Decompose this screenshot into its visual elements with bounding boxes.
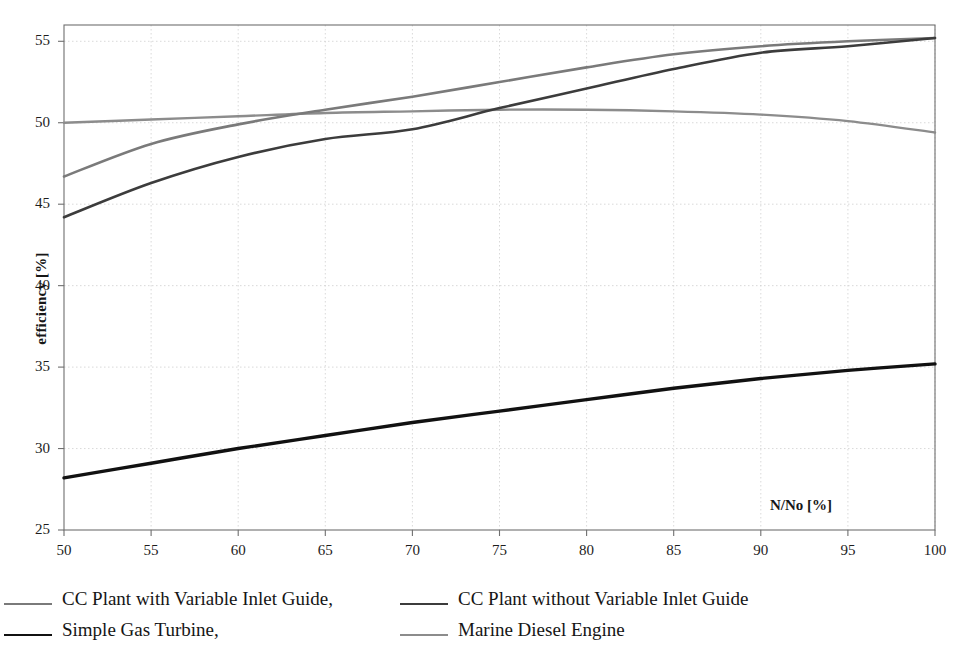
legend-label: CC Plant with Variable Inlet Guide, [62, 589, 333, 608]
legend-label: CC Plant without Variable Inlet Guide [458, 589, 748, 608]
y-tick-label: 25 [16, 521, 50, 538]
legend-entry: CC Plant with Variable Inlet Guide, [4, 583, 333, 613]
x-tick-label: 80 [567, 542, 607, 559]
x-tick-label: 95 [828, 542, 868, 559]
y-tick-label: 50 [16, 114, 50, 131]
y-axis-title: efficiency [%] [33, 234, 50, 364]
x-tick-label: 50 [44, 542, 84, 559]
y-tick-label: 45 [16, 195, 50, 212]
legend-line-swatch [4, 603, 52, 605]
legend-line-swatch [400, 603, 448, 605]
legend-label: Simple Gas Turbine, [62, 620, 219, 639]
legend-row: Simple Gas Turbine,Marine Diesel Engine [0, 614, 963, 644]
legend-entry: Simple Gas Turbine, [4, 614, 219, 644]
legend-entry: Marine Diesel Engine [400, 614, 625, 644]
x-tick-label: 90 [741, 542, 781, 559]
legend-line-swatch [4, 634, 52, 636]
chart-legend: CC Plant with Variable Inlet Guide,CC Pl… [0, 583, 963, 649]
y-tick-label: 30 [16, 440, 50, 457]
x-tick-label: 65 [305, 542, 345, 559]
legend-row: CC Plant with Variable Inlet Guide,CC Pl… [0, 583, 963, 613]
x-tick-label: 85 [654, 542, 694, 559]
y-tick-label: 55 [16, 32, 50, 49]
legend-line-swatch [400, 634, 448, 636]
efficiency-vs-speed-chart: 2530354045505550556065707580859095100 ef… [0, 0, 963, 653]
legend-entry: CC Plant without Variable Inlet Guide [400, 583, 748, 613]
x-tick-label: 100 [915, 542, 955, 559]
x-tick-label: 60 [218, 542, 258, 559]
legend-label: Marine Diesel Engine [458, 620, 625, 639]
series-line [64, 364, 935, 478]
x-tick-label: 75 [480, 542, 520, 559]
x-axis-title: N/No [%] [770, 497, 832, 514]
axis-ticks [58, 41, 935, 536]
x-tick-label: 55 [131, 542, 171, 559]
x-tick-label: 70 [392, 542, 432, 559]
